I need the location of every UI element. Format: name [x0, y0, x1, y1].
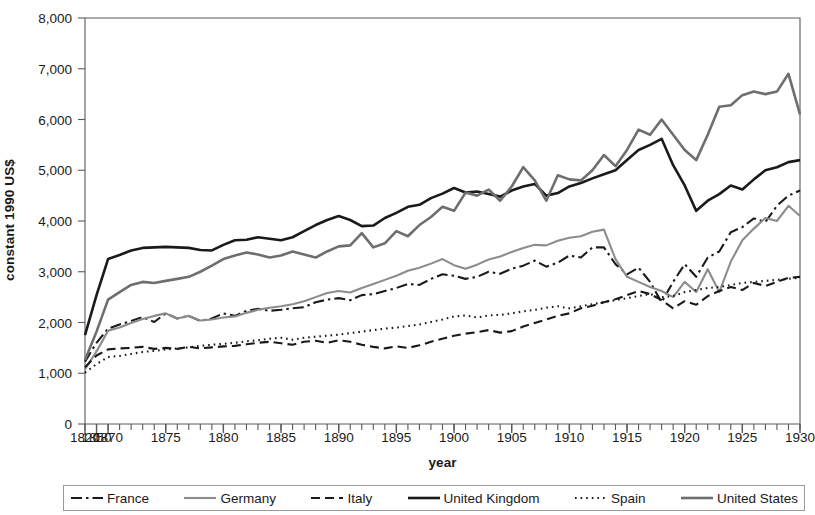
y-tick-label: 0 — [0, 417, 72, 432]
y-tick-label: 2,000 — [0, 315, 72, 330]
x-tick-label: 1915 — [612, 430, 642, 445]
y-tick-label: 7,000 — [0, 61, 72, 76]
series-line-spain — [85, 278, 800, 373]
legend-label: Spain — [611, 491, 646, 506]
y-tick-label: 6,000 — [0, 112, 72, 127]
x-axis-label: year — [85, 455, 800, 470]
x-tick-label: 1890 — [324, 430, 354, 445]
x-tick-label: 1895 — [381, 430, 411, 445]
x-tick-label: 1920 — [670, 430, 700, 445]
legend-label: United Kingdom — [444, 491, 540, 506]
y-tick-label: 3,000 — [0, 264, 72, 279]
legend-item-italy: Italy — [310, 491, 372, 506]
series-line-united-kingdom — [85, 139, 800, 335]
legend-swatch-united-kingdom — [407, 492, 441, 504]
legend-item-germany: Germany — [183, 491, 276, 506]
x-tick-label: 1905 — [497, 430, 527, 445]
legend-item-spain: Spain — [574, 491, 646, 506]
legend-swatch-italy — [310, 492, 344, 504]
chart-legend: FranceGermanyItalyUnited KingdomSpainUni… — [63, 485, 805, 511]
legend-label: Italy — [347, 491, 372, 506]
x-tick-label: 1900 — [439, 430, 469, 445]
x-tick-label: 1880 — [208, 430, 238, 445]
x-tick-label: 1870 — [93, 430, 123, 445]
legend-item-united-states: United States — [680, 491, 798, 506]
y-tick-label: 5,000 — [0, 163, 72, 178]
x-tick-label: 1875 — [151, 430, 181, 445]
y-tick-label: 1,000 — [0, 366, 72, 381]
legend-swatch-germany — [183, 492, 217, 504]
legend-item-united-kingdom: United Kingdom — [407, 491, 540, 506]
x-tick-label: 1910 — [554, 430, 584, 445]
series-line-germany — [85, 206, 800, 369]
legend-item-france: France — [70, 491, 149, 506]
x-tick-label: 1925 — [727, 430, 757, 445]
legend-swatch-united-states — [680, 492, 714, 504]
legend-label: United States — [717, 491, 798, 506]
x-tick-label: 1930 — [785, 430, 815, 445]
legend-label: France — [107, 491, 149, 506]
y-axis-tick-labels: 01,0002,0003,0004,0005,0006,0007,0008,00… — [0, 0, 72, 515]
legend-label: Germany — [220, 491, 276, 506]
x-tick-label: 1885 — [266, 430, 296, 445]
y-tick-label: 8,000 — [0, 11, 72, 26]
legend-swatch-france — [70, 492, 104, 504]
legend-swatch-spain — [574, 492, 608, 504]
y-tick-label: 4,000 — [0, 214, 72, 229]
